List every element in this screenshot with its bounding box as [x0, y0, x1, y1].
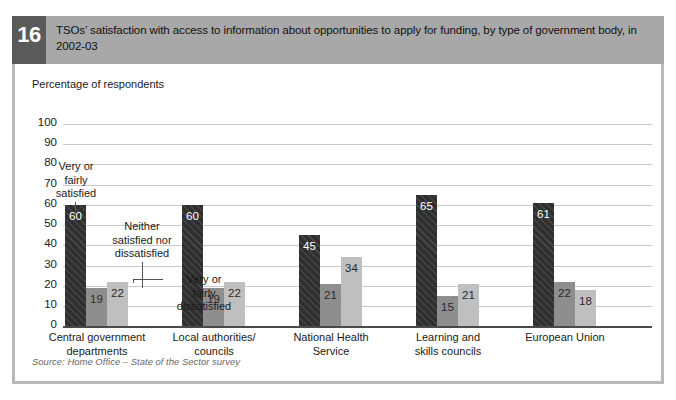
gridline-90 [63, 144, 652, 145]
category-label-line: National Health [267, 330, 395, 344]
bar-value-label: 21 [458, 289, 479, 301]
annotation-very-or-fairly-satisfied: Very or fairly satisfied [53, 160, 99, 201]
figure-title: TSOs’ satisfaction with access to inform… [56, 23, 654, 54]
gridline-80 [63, 164, 652, 165]
figure-number: 16 [12, 16, 46, 64]
y-tick-label-60: 60 [17, 197, 57, 209]
leader-line-neither [142, 262, 143, 288]
y-tick-label-0: 0 [17, 318, 57, 330]
bar-value-label: 18 [575, 295, 596, 307]
chart-panel: Percentage of respondents 100 90 80 70 6… [12, 64, 664, 384]
leader-line-dissatisfied-horizontal [133, 279, 163, 280]
gridline-100 [63, 124, 652, 125]
bar-value-label: 34 [341, 262, 362, 274]
category-label-line: Service [267, 344, 395, 358]
bar-dissatisfied-central-government: 22 [107, 282, 128, 326]
y-tick-label-70: 70 [17, 177, 57, 189]
y-tick-label-100: 100 [17, 116, 57, 128]
category-label-learning-skills-councils: Learning and skills councils [384, 330, 512, 358]
bar-dissatisfied-european-union: 18 [575, 290, 596, 326]
y-tick-label-10: 10 [17, 298, 57, 310]
bar-neither-national-health-service: 21 [320, 284, 341, 326]
y-tick-label-90: 90 [17, 136, 57, 148]
annotation-line: dissatisfied [163, 300, 245, 314]
annotation-line: Very or [53, 160, 99, 174]
figure-container: 16 TSOs’ satisfaction with access to inf… [12, 16, 664, 384]
annotation-neither-satisfied-nor-dissatisfied: Neither satisfied nor dissatisfied [96, 220, 188, 261]
gridline-70 [63, 185, 652, 186]
bar-value-label: 19 [86, 293, 107, 305]
bar-satisfied-central-government: 60 [65, 205, 86, 326]
y-tick-label-50: 50 [17, 217, 57, 229]
bar-neither-learning-skills-councils: 15 [437, 296, 458, 326]
figure-header: 16 TSOs’ satisfaction with access to inf… [12, 16, 664, 64]
leader-line-satisfied [75, 202, 76, 216]
leader-line-dissatisfied-vertical [133, 279, 134, 283]
bar-value-label: 21 [320, 289, 341, 301]
bar-dissatisfied-learning-skills-councils: 21 [458, 284, 479, 326]
category-label-line: Local authorities/ [150, 330, 278, 344]
annotation-line: Very or [163, 273, 245, 287]
y-tick-label-40: 40 [17, 237, 57, 249]
annotation-line: Neither [96, 220, 188, 234]
category-label-line: European Union [501, 330, 629, 344]
category-label-local-authorities: Local authorities/ councils [150, 330, 278, 358]
annotation-line: fairly [163, 287, 245, 301]
annotation-very-or-fairly-dissatisfied: Very or fairly dissatisfied [163, 273, 245, 314]
category-label-line: skills councils [384, 344, 512, 358]
annotation-line: satisfied nor [96, 234, 188, 248]
category-label-line: Central government [33, 330, 161, 344]
annotation-line: dissatisfied [96, 247, 188, 261]
y-tick-label-30: 30 [17, 258, 57, 270]
y-tick-label-80: 80 [17, 156, 57, 168]
x-axis-baseline [63, 326, 652, 328]
source-note: Source: Home Office – State of the Secto… [32, 356, 240, 367]
y-tick-label-20: 20 [17, 278, 57, 290]
bar-value-label: 22 [554, 287, 575, 299]
bar-value-label: 61 [533, 208, 554, 220]
bar-satisfied-learning-skills-councils: 65 [416, 195, 437, 326]
bar-neither-central-government: 19 [86, 288, 107, 326]
gridline-60 [63, 205, 652, 206]
bar-neither-european-union: 22 [554, 282, 575, 326]
category-label-european-union: European Union [501, 330, 629, 344]
bar-value-label: 15 [437, 301, 458, 313]
bar-value-label: 22 [107, 287, 128, 299]
annotation-line: satisfied [53, 187, 99, 201]
bar-value-label: 65 [416, 200, 437, 212]
bar-value-label: 45 [299, 240, 320, 252]
bar-satisfied-european-union: 61 [533, 203, 554, 326]
category-label-national-health-service: National Health Service [267, 330, 395, 358]
bar-dissatisfied-national-health-service: 34 [341, 257, 362, 326]
category-label-line: Learning and [384, 330, 512, 344]
bar-satisfied-national-health-service: 45 [299, 235, 320, 326]
annotation-line: fairly [53, 174, 99, 188]
category-label-central-government: Central government departments [33, 330, 161, 358]
plot-area: 100 90 80 70 60 50 40 30 20 10 0 60 19 2… [15, 64, 667, 384]
